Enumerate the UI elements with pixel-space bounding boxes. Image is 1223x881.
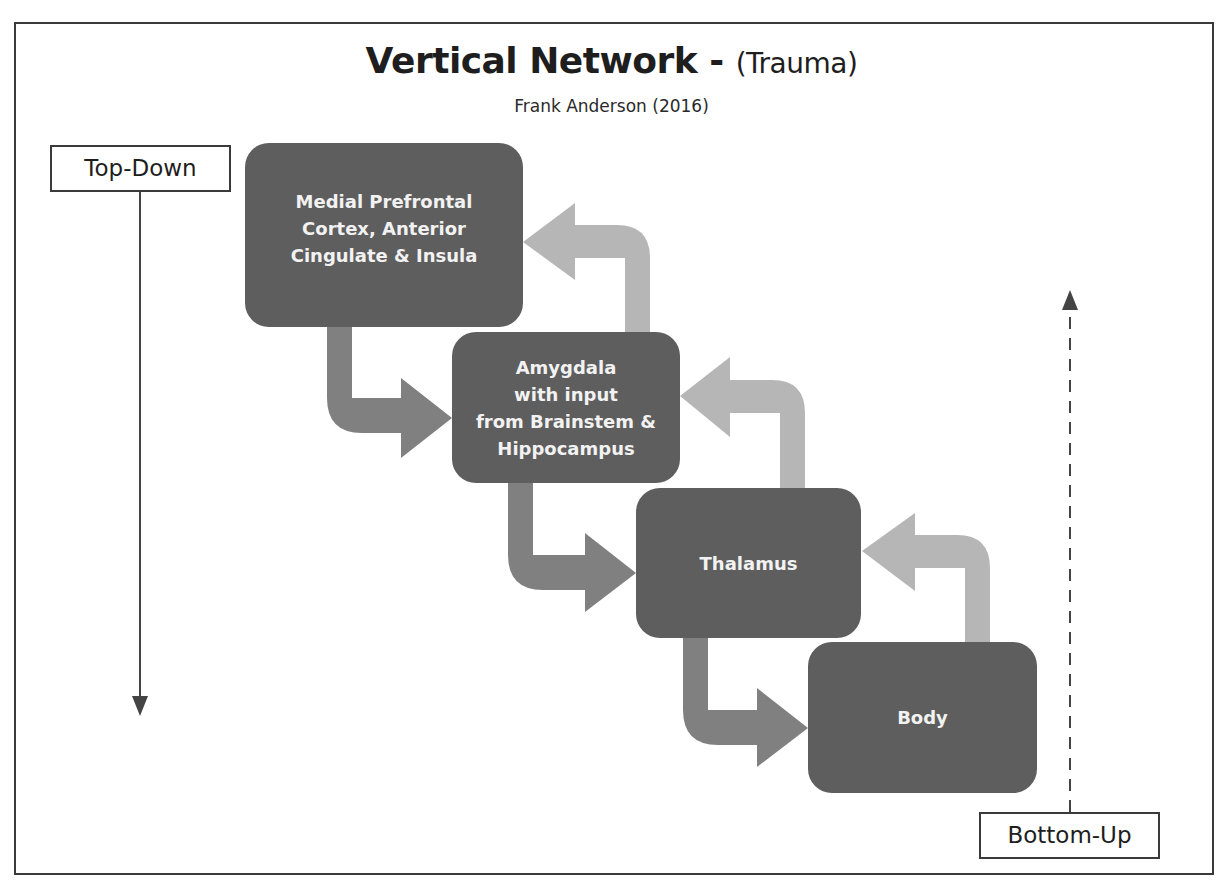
down-arrow-amygdala-to-thalamus-icon bbox=[508, 483, 636, 612]
node-body: Body bbox=[808, 642, 1037, 793]
node-amygdala: Amygdala with input from Brainstem & Hip… bbox=[452, 332, 680, 483]
node-label: Amygdala with input from Brainstem & Hip… bbox=[476, 354, 656, 462]
up-arrow-amygdala-to-mpfc-icon bbox=[523, 203, 650, 332]
up-arrow-body-to-thalamus-icon bbox=[862, 513, 990, 642]
up-arrow-thalamus-to-amygdala-icon bbox=[680, 357, 805, 488]
top-down-label: Top-Down bbox=[50, 145, 231, 192]
bottom-up-arrow-icon bbox=[1062, 290, 1078, 812]
down-arrow-mpfc-to-amygdala-icon bbox=[327, 327, 452, 458]
bottom-up-label: Bottom-Up bbox=[979, 812, 1160, 859]
top-down-arrow-icon bbox=[132, 192, 148, 716]
node-label: Medial Prefrontal Cortex, Anterior Cingu… bbox=[291, 188, 478, 269]
down-arrow-thalamus-to-body-icon bbox=[683, 638, 808, 767]
node-label: Thalamus bbox=[700, 550, 798, 577]
node-thalamus: Thalamus bbox=[636, 488, 861, 638]
node-label: Body bbox=[897, 704, 948, 731]
node-medial-prefrontal-cortex: Medial Prefrontal Cortex, Anterior Cingu… bbox=[245, 143, 523, 327]
